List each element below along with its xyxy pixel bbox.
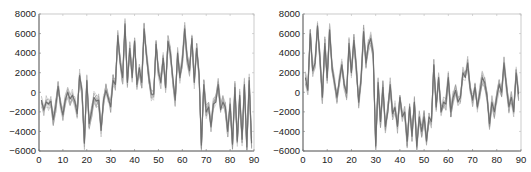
x-tick-label: 10 [58,154,69,165]
line-chart-right: −6000−4000−20000200040006000800001020304… [265,0,531,172]
mean-trace [41,24,251,147]
y-tick-label: 8000 [279,8,300,19]
data-trace [41,19,251,151]
x-tick-label: 90 [249,154,260,165]
x-tick-label: 80 [225,154,236,165]
x-tick-label: 90 [516,154,527,165]
x-tick-label: 70 [201,154,212,165]
line-chart-left: −6000−4000−20000200040006000800001020304… [0,0,265,172]
x-tick-label: 80 [491,154,502,165]
y-tick-label: −4000 [9,126,36,137]
x-tick-label: 50 [419,154,430,165]
x-tick-label: 0 [300,154,305,165]
x-tick-label: 50 [153,154,164,165]
y-tick-label: −2000 [273,106,300,117]
data-trace [41,26,251,148]
trace-group [41,19,251,152]
trace-group [305,21,518,151]
x-tick-label: 0 [36,154,41,165]
data-trace [305,24,518,143]
y-tick-label: 2000 [15,67,36,78]
data-trace [305,28,518,143]
y-tick-label: −4000 [273,126,300,137]
data-trace [41,25,251,149]
data-trace [41,22,251,146]
data-trace [41,26,251,151]
data-trace [41,26,251,149]
data-trace [41,26,251,147]
data-trace [41,22,251,146]
x-tick-label: 20 [346,154,357,165]
x-tick-label: 10 [322,154,333,165]
y-tick-label: 8000 [15,8,36,19]
y-tick-label: −6000 [273,145,300,156]
y-tick-label: 2000 [279,67,300,78]
x-tick-label: 40 [395,154,406,165]
x-tick-label: 70 [467,154,478,165]
x-tick-label: 30 [370,154,381,165]
y-tick-label: 0 [295,87,300,98]
x-tick-label: 60 [177,154,188,165]
y-tick-label: 6000 [279,28,300,39]
chart-panel-left: −6000−4000−20000200040006000800001020304… [0,0,265,172]
data-trace [41,21,251,147]
y-tick-label: 0 [31,87,36,98]
y-tick-label: −6000 [9,145,36,156]
y-tick-label: 4000 [279,47,300,58]
x-tick-label: 60 [443,154,454,165]
y-tick-label: 4000 [15,47,36,58]
data-trace [41,23,251,151]
x-tick-label: 40 [129,154,140,165]
y-tick-label: 6000 [15,28,36,39]
chart-panel-right: −6000−4000−20000200040006000800001020304… [265,0,531,172]
x-tick-label: 30 [105,154,116,165]
y-tick-label: −2000 [9,106,36,117]
x-tick-label: 20 [81,154,92,165]
axes-frame [39,14,254,151]
